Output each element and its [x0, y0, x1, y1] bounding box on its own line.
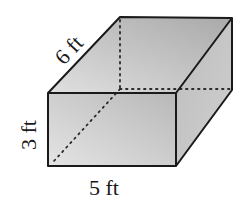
front-face [48, 93, 176, 166]
height-label: 3 ft [16, 120, 41, 150]
width-label: 5 ft [89, 175, 119, 200]
rectangular-prism-diagram: 6 ft 3 ft 5 ft [0, 0, 243, 203]
